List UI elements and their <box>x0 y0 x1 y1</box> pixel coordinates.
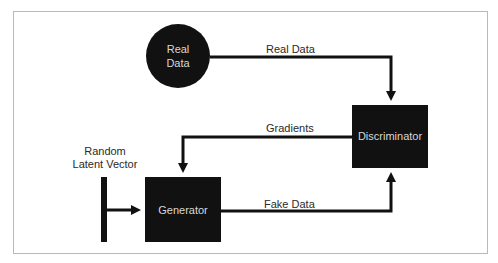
generator-node-label: Generator <box>145 203 221 217</box>
edge-real-data <box>210 57 391 96</box>
edge-label-real-data: Real Data <box>266 43 315 56</box>
discriminator-node-label: Discriminator <box>352 129 428 143</box>
real-data-node-label: Real Data <box>146 42 210 70</box>
latent-vector-label: Random Latent Vector <box>64 145 146 171</box>
latent-vector-bar <box>101 177 107 242</box>
edge-label-gradients: Gradients <box>266 122 314 135</box>
real-data-node-line2: Data <box>146 56 210 70</box>
edge-label-fake-data: Fake Data <box>264 198 315 211</box>
edge-gradients <box>183 137 352 168</box>
latent-vector-line2: Latent Vector <box>64 158 146 171</box>
latent-vector-line1: Random <box>64 145 146 158</box>
real-data-node-line1: Real <box>146 42 210 56</box>
